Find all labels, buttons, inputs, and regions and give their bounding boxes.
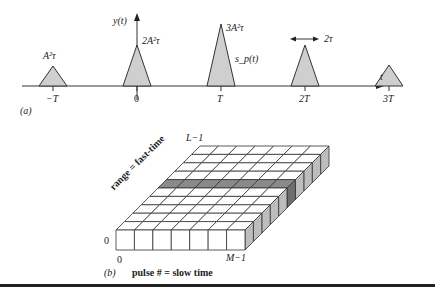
pulse-label: s_p(t) — [235, 54, 258, 64]
tick-label-minus-T: −T — [46, 94, 58, 104]
tick-label-0: 0 — [134, 94, 139, 104]
width-annotation: 2τ — [324, 34, 333, 44]
panel-b-tag: (b) — [104, 268, 116, 278]
tick-label-3T: 3T — [383, 94, 394, 104]
panel-a-signal-plot — [22, 13, 403, 100]
peak-label-0: 2A²τ — [142, 36, 160, 46]
y-axis-label: y(t) — [113, 16, 127, 26]
top-row-label: L−1 — [186, 133, 203, 143]
tick-label-2T: 2T — [299, 94, 310, 104]
slow-time-axis-label: pulse # = slow time — [132, 268, 213, 278]
pulse-T — [207, 24, 235, 86]
peak-label-T: 3A²τ — [226, 23, 244, 33]
tick-label-T: T — [217, 94, 223, 104]
origin-row-label: 0 — [104, 236, 109, 246]
last-col-label: M−1 — [226, 253, 246, 263]
diagram-canvas — [0, 0, 435, 291]
pulse-2T — [291, 45, 319, 86]
origin-col-label: 0 — [117, 255, 122, 265]
page-bottom-rule — [0, 284, 435, 287]
panel-b-data-cube — [116, 146, 329, 250]
t-axis-label: t — [380, 72, 383, 82]
pulse-0 — [123, 45, 151, 86]
y-axis-arrowhead — [134, 13, 140, 21]
panel-a-tag: (a) — [20, 106, 32, 116]
peak-label-minus-T: A²τ — [43, 51, 56, 61]
pulse-minus-T — [39, 66, 67, 86]
